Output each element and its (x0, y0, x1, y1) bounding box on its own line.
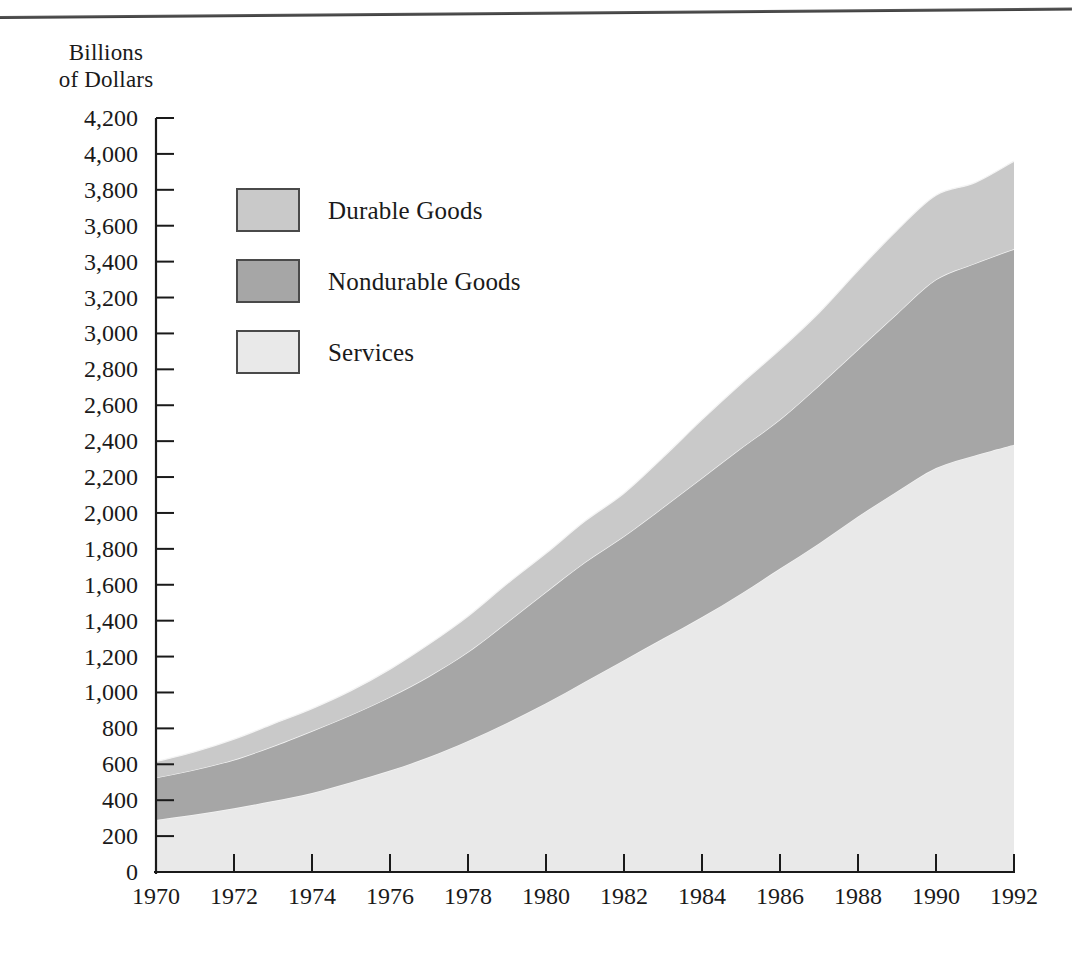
x-axis-tick-label: 1980 (501, 884, 591, 908)
y-axis-tick-label: 2,400 (38, 429, 138, 453)
legend-label: Nondurable Goods (328, 269, 521, 294)
legend-swatch-icon (236, 330, 300, 374)
y-axis-tick-label: 1,600 (38, 573, 138, 597)
legend-label: Durable Goods (328, 198, 483, 223)
y-axis-tick-label: 4,000 (38, 142, 138, 166)
x-axis-tick-label: 1970 (111, 884, 201, 908)
y-axis-tick-label: 1,200 (38, 645, 138, 669)
legend-swatch-icon (236, 259, 300, 303)
y-axis-tick-label: 1,400 (38, 609, 138, 633)
x-axis-tick-label: 1982 (579, 884, 669, 908)
y-axis-tick-label: 0 (38, 860, 138, 884)
legend-item[interactable]: Services (236, 328, 521, 376)
y-axis-tick-label: 800 (38, 716, 138, 740)
chart-figure: Billions of Dollars 4,2004,0003,8003,600… (0, 0, 1072, 965)
y-axis-tick-label: 2,800 (38, 357, 138, 381)
x-axis-tick-label: 1976 (345, 884, 435, 908)
y-axis-tick-label: 3,800 (38, 178, 138, 202)
chart-legend: Durable GoodsNondurable GoodsServices (236, 186, 521, 399)
x-axis-tick-label: 1990 (891, 884, 981, 908)
y-axis-tick-label: 1,800 (38, 537, 138, 561)
y-axis-tick-label: 400 (38, 788, 138, 812)
y-axis-tick-label: 200 (38, 824, 138, 848)
y-axis-tick-label: 4,200 (38, 106, 138, 130)
y-axis-tick-label: 3,200 (38, 286, 138, 310)
y-axis-tick-label: 3,600 (38, 214, 138, 238)
x-axis-tick-label: 1986 (735, 884, 825, 908)
x-axis-tick-label: 1972 (189, 884, 279, 908)
x-axis-tick-label: 1988 (813, 884, 903, 908)
y-axis-tick-label: 1,000 (38, 680, 138, 704)
y-axis-tick-label: 3,000 (38, 321, 138, 345)
x-axis-tick-label: 1984 (657, 884, 747, 908)
y-axis-tick-label: 2,000 (38, 501, 138, 525)
legend-label: Services (328, 340, 414, 365)
y-axis-tick-label: 3,400 (38, 250, 138, 274)
legend-item[interactable]: Durable Goods (236, 186, 521, 234)
legend-swatch-icon (236, 188, 300, 232)
legend-item[interactable]: Nondurable Goods (236, 257, 521, 305)
plot-area (0, 0, 1072, 965)
x-axis-tick-label: 1978 (423, 884, 513, 908)
x-axis-tick-label: 1974 (267, 884, 357, 908)
y-axis-tick-label: 2,600 (38, 393, 138, 417)
y-axis-tick-label: 600 (38, 752, 138, 776)
stacked-area-chart (0, 0, 1072, 965)
x-axis-tick-label: 1992 (969, 884, 1059, 908)
y-axis-tick-label: 2,200 (38, 465, 138, 489)
